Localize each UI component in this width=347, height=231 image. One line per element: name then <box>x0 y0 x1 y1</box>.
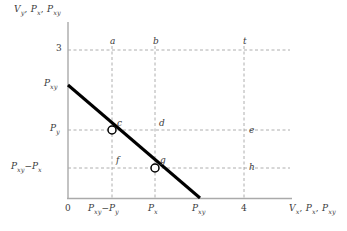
x-tick-px-sub: x <box>154 208 158 216</box>
x-tick-label-pxy-minus-py: Pxy−Py <box>88 203 119 216</box>
point-label-g: g <box>160 155 166 165</box>
y-tick-label-pxy: Pxy <box>44 78 57 91</box>
y-tick-pxypx-sub2: x <box>38 166 42 174</box>
point-label-h: h <box>249 162 255 172</box>
y-tick-label-py: Py <box>50 123 60 136</box>
economics-budget-line-chart: Vy, Px, Pxy Vx, Px, Pxy 3 Pxy Py Pxy−Px … <box>0 0 347 231</box>
point-label-b: b <box>153 36 159 46</box>
x-tick-label-0: 0 <box>65 203 71 213</box>
x-axis-label-p2-sub: xy <box>328 208 336 216</box>
point-label-c: c <box>117 118 122 128</box>
x-axis-label-v: V <box>289 203 296 213</box>
y-axis-label: Vy, Px, Pxy <box>14 4 61 17</box>
y-tick-pxypx-op: − <box>24 161 32 171</box>
y-tick-py-sub: y <box>56 128 60 136</box>
x-tick-pxypy-sub2: y <box>115 208 119 216</box>
point-label-e: e <box>249 125 254 135</box>
point-label-a: a <box>110 36 115 46</box>
point-label-d: d <box>159 118 165 128</box>
chart-canvas <box>0 0 347 231</box>
x-tick-pxy-sub: xy <box>198 208 205 216</box>
x-tick-label-px: Px <box>148 203 158 216</box>
point-label-f: f <box>116 155 119 165</box>
budget-line <box>68 85 200 198</box>
y-axis-label-v: V <box>14 4 21 14</box>
y-tick-label-pxy-minus-px: Pxy−Px <box>11 161 42 174</box>
y-tick-label-3: 3 <box>56 43 62 53</box>
x-axis-label: Vx, Px, Pxy <box>289 203 336 216</box>
y-axis-label-p2-sub: xy <box>53 9 61 17</box>
x-tick-label-pxy: Pxy <box>192 203 205 216</box>
x-tick-pxypy-op: − <box>101 203 109 213</box>
point-label-t: t <box>243 36 247 46</box>
point-marker-c <box>108 126 116 134</box>
point-marker-g <box>151 164 159 172</box>
y-tick-pxy-sub: xy <box>50 83 57 91</box>
x-tick-label-4: 4 <box>241 203 247 213</box>
